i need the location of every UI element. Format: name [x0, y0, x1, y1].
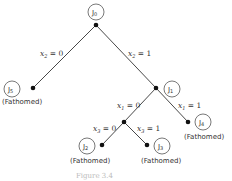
branch-and-bound-tree: x2 = 0x2 = 1x1 = 0x1 = 1x3 = 0x3 = 1 J0J…: [0, 0, 232, 181]
node-dot: [100, 143, 105, 148]
fathomed-label: (Fathomed): [2, 98, 42, 106]
node-dot: [154, 86, 159, 91]
edge-label: x3 = 0: [93, 124, 116, 134]
node-j1: J1: [154, 81, 180, 97]
edge-label: x2 = 1: [128, 49, 151, 59]
node-j4: J4(Fathomed): [184, 114, 224, 141]
node-n: [122, 120, 127, 125]
edge-label: x3 = 1: [137, 124, 160, 134]
node-dot: [31, 86, 36, 91]
edge-label: x1 = 0: [117, 101, 140, 111]
node-dot: [186, 120, 191, 125]
figure-caption: Figure 3.4: [76, 172, 113, 180]
fathomed-label: (Fathomed): [184, 133, 224, 141]
edge-label: x2 = 0: [40, 49, 63, 59]
fathomed-label: (Fathomed): [141, 157, 181, 165]
node-dot: [122, 120, 127, 125]
node-dot: [94, 23, 99, 28]
node-j3: J3(Fathomed): [141, 138, 181, 165]
node-dot: [145, 143, 150, 148]
edge-label: x1 = 1: [178, 101, 201, 111]
node-j0: J0: [88, 4, 104, 27]
tree-nodes: J0J5(Fathomed)J1J4(Fathomed)J2(Fathomed)…: [2, 4, 224, 165]
fathomed-label: (Fathomed): [70, 157, 110, 165]
